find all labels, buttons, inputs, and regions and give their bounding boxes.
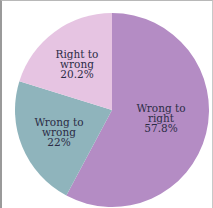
label-value: 57.8% xyxy=(144,122,177,134)
label-value: 20.2% xyxy=(60,68,93,80)
chart-frame: Wrong to right 57.8% Wrong to wrong 22% … xyxy=(0,0,213,208)
slice-label-right-to-wrong: Right to wrong 20.2% xyxy=(56,48,99,80)
label-value: 22% xyxy=(47,136,70,148)
pie-chart: Wrong to right 57.8% Wrong to wrong 22% … xyxy=(2,1,213,208)
